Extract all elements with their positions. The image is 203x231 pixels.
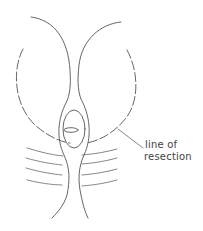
left-curve	[31, 17, 70, 218]
label-leader-line	[118, 129, 143, 148]
right-fold-1	[82, 149, 117, 155]
left-fold-1	[27, 148, 63, 156]
inner-ellipse	[63, 110, 85, 148]
right-curve	[78, 22, 121, 218]
left-fold-2	[26, 158, 62, 165]
right-fold-4	[82, 180, 117, 186]
right-fold-2	[82, 158, 117, 164]
right-fold-3	[82, 169, 117, 175]
diagram-canvas	[0, 0, 203, 231]
central-small-ellipse	[64, 128, 78, 133]
resection-label-line1: line of	[145, 139, 177, 151]
resection-label-line2: resection	[144, 151, 192, 163]
left-fold-3	[26, 168, 62, 175]
resection-line	[16, 49, 70, 143]
resection-line-right	[86, 50, 136, 143]
left-fold-4	[27, 180, 62, 185]
